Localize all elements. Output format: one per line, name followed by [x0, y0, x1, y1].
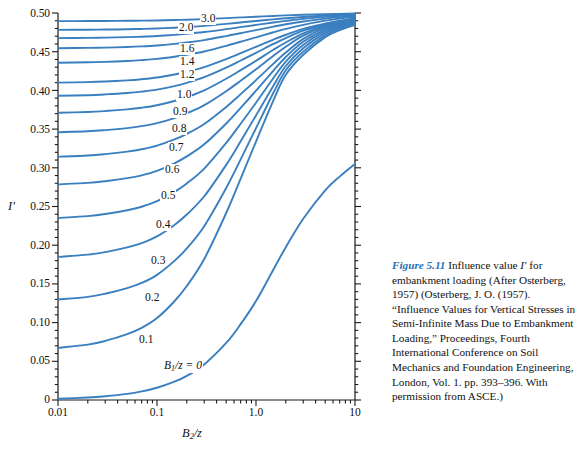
curves [58, 14, 355, 399]
curve-label-0-5: 0.5 [160, 190, 176, 202]
curve-label-0-1: 0.1 [138, 334, 154, 346]
curve-label-0-9: 0.9 [172, 106, 188, 118]
caption-symbol: I′ [520, 259, 526, 271]
curve-label-0-6: 0.6 [164, 164, 180, 176]
y-tick-label: 0.35 [10, 124, 50, 136]
y-tick-label: 0.30 [10, 163, 50, 175]
x-tick-label: 1.0 [231, 407, 281, 419]
curve-0-1 [58, 25, 355, 348]
x-ticks [58, 400, 355, 406]
x-axis-title-main: B [182, 426, 190, 440]
y-tick-label: 0.40 [10, 86, 50, 98]
curve-label-1-0: 1.0 [176, 89, 192, 101]
curve-label-0-7: 0.7 [168, 142, 184, 154]
figure-caption: Figure 5.11 Influence value I′ for emban… [392, 258, 580, 404]
x-axis-title-rest: /z [194, 426, 202, 440]
y-axis-title: I′ [8, 199, 15, 214]
baseline-rest: /z = 0 [175, 359, 202, 371]
y-tick-label: 0.15 [10, 278, 50, 290]
curve-label-1-6: 1.6 [179, 43, 195, 55]
y-tick-label: 0 [10, 394, 50, 406]
y-tick-label: 0.10 [10, 317, 50, 329]
y-tick-label: 0.05 [10, 355, 50, 367]
y-tick-label: 0.45 [10, 47, 50, 59]
curve-label-1-4: 1.4 [179, 56, 195, 68]
figure-container: 0 0.05 0.10 0.15 0.20 0.25 0.30 0.35 0.4… [0, 0, 583, 452]
y-tick-label: 0.20 [10, 240, 50, 252]
curve-0 [58, 164, 355, 399]
x-axis-title: B2/z [182, 426, 202, 441]
figure-number: Figure 5.11 [392, 259, 445, 271]
baseline-symbol: B [164, 359, 171, 371]
y-tick-label: 0.50 [10, 8, 50, 20]
x-tick-label: 10 [330, 407, 380, 419]
curve-label-baseline: B1/z = 0 [163, 360, 203, 373]
curve-label-0-3: 0.3 [150, 255, 166, 267]
y-ticks [52, 13, 58, 400]
curve-label-0-2: 0.2 [144, 292, 160, 304]
curve-label-1-2: 1.2 [179, 69, 195, 81]
curve-label-0-4: 0.4 [155, 219, 171, 231]
figure-caption-text: Influence value I′ for embankment loadin… [392, 259, 575, 402]
y-ticks-right [355, 13, 361, 400]
curve-label-3-0: 3.0 [200, 13, 216, 25]
x-tick-label: 0.1 [132, 407, 182, 419]
x-tick-label: 0.01 [33, 407, 83, 419]
curve-label-0-8: 0.8 [171, 123, 187, 135]
curve-label-2-0: 2.0 [178, 22, 194, 34]
y-tick-label: 0.25 [10, 201, 50, 213]
